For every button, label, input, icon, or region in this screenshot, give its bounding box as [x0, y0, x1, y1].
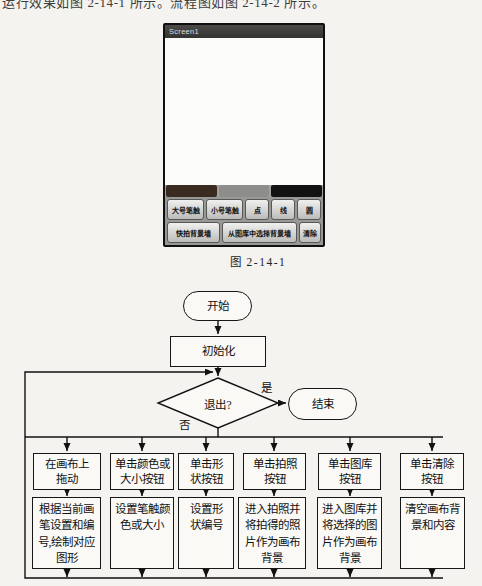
flow-result-gallery-background: 进入图库并 将选择的图 片作为画布 背景 [317, 497, 382, 569]
dot-button[interactable]: 点 [245, 199, 269, 220]
flow-result-camera-background: 进入拍照并 将拍得的照 片作为画布 背景 [238, 497, 306, 569]
blue-color-button[interactable] [271, 185, 322, 197]
phone-title-bar: Screen1 [165, 25, 323, 38]
flow-init-node: 初始化 [170, 336, 266, 367]
flow-decision-label: 退出? [188, 396, 248, 412]
phone-button-row-1: 大号笔触 小号笔触 点 线 圆 [167, 199, 321, 220]
drawing-canvas[interactable] [165, 38, 323, 185]
flow-action-gallery: 单击图库 按钮 [318, 453, 381, 490]
intro-text-clipped: 运行效果如图 2-14-1 所示。流程图如图 2-14-2 所示。 [2, 0, 480, 9]
flow-result-set-color-size: 设置笔触颜 色或大小 [110, 497, 174, 569]
color-button-strip [165, 185, 323, 197]
small-brush-button[interactable]: 小号笔触 [206, 199, 243, 220]
phone-screenshot: Screen1 大号笔触 小号笔触 点 线 圆 快拍背景墙 从图库中选择背景墙 … [163, 23, 325, 247]
flow-action-shape: 单击形 状按钮 [178, 453, 234, 490]
camera-background-button[interactable]: 快拍背景墙 [167, 222, 220, 243]
flow-no-label: 否 [176, 416, 192, 432]
flow-yes-label: 是 [258, 379, 274, 395]
flow-result-set-shape: 设置形 状编号 [178, 497, 234, 569]
phone-button-area: 大号笔触 小号笔触 点 线 圆 快拍背景墙 从图库中选择背景墙 清除 [165, 197, 323, 245]
figure-caption: 图 2-14-1 [178, 253, 338, 269]
circle-button[interactable]: 圆 [297, 199, 321, 220]
line-button[interactable]: 线 [271, 199, 295, 220]
flow-action-drag-canvas: 在画布上 拖动 [33, 453, 101, 490]
screen-title: Screen1 [169, 27, 199, 36]
big-brush-button[interactable]: 大号笔触 [167, 199, 204, 220]
red-color-button[interactable] [166, 185, 217, 197]
intro-text: 运行效果如图 2-14-1 所示。流程图如图 2-14-2 所示。 [2, 0, 480, 9]
clear-button[interactable]: 清除 [299, 222, 321, 243]
flow-end-node: 结束 [288, 388, 357, 420]
book-page: 运行效果如图 2-14-1 所示。流程图如图 2-14-2 所示。 Screen… [0, 0, 482, 586]
flow-action-color-size: 单击颜色或 大小按钮 [110, 453, 174, 490]
flow-action-camera: 单击拍照 按钮 [243, 453, 306, 490]
green-color-button[interactable] [219, 185, 270, 197]
gallery-background-button[interactable]: 从图库中选择背景墙 [222, 222, 297, 243]
flow-start-node: 开始 [183, 291, 252, 321]
flow-action-clear: 单击清除 按钮 [400, 453, 464, 490]
phone-button-row-2: 快拍背景墙 从图库中选择背景墙 清除 [167, 222, 321, 243]
flow-result-draw: 根据当前画 笔设置和编 号,绘制对应 图形 [32, 497, 101, 569]
flow-result-clear-canvas: 清空画布背 景和内容 [400, 497, 465, 569]
